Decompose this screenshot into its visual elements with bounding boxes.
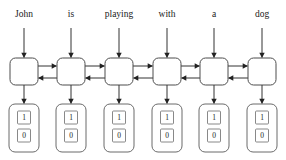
output-digit-value-2-2: 0 bbox=[69, 131, 73, 140]
output-digit-value-6-1: 1 bbox=[260, 113, 264, 122]
output-arrows-group bbox=[24, 85, 262, 104]
input-word-label-2: is bbox=[68, 9, 75, 19]
input-word-labels: Johnisplayingwithadog bbox=[15, 9, 269, 19]
output-boxes-group: 101010101010 bbox=[9, 104, 277, 152]
rnn-cell-3 bbox=[105, 58, 133, 85]
output-digit-value-3-1: 1 bbox=[117, 113, 121, 122]
rnn-cells-group bbox=[10, 58, 276, 85]
output-digit-value-1-2: 0 bbox=[22, 131, 26, 140]
input-arrows-group bbox=[24, 28, 262, 58]
rnn-cell-2 bbox=[57, 58, 85, 85]
input-word-label-6: dog bbox=[255, 9, 270, 19]
input-word-label-3: playing bbox=[105, 9, 134, 19]
diagram-canvas: Johnisplayingwithadog 101010101010 bbox=[0, 0, 286, 160]
output-digit-value-4-1: 1 bbox=[165, 113, 169, 122]
rnn-cell-6 bbox=[248, 58, 276, 85]
output-digit-value-2-1: 1 bbox=[69, 113, 73, 122]
output-digit-value-1-1: 1 bbox=[22, 113, 26, 122]
output-digit-value-4-2: 0 bbox=[165, 131, 169, 140]
output-digit-value-5-1: 1 bbox=[212, 113, 216, 122]
output-digit-value-6-2: 0 bbox=[260, 131, 264, 140]
rnn-cell-4 bbox=[153, 58, 181, 85]
input-word-label-5: a bbox=[212, 9, 217, 19]
rnn-cell-5 bbox=[200, 58, 228, 85]
bidirectional-rnn-diagram: Johnisplayingwithadog 101010101010 bbox=[0, 0, 286, 160]
input-word-label-4: with bbox=[159, 9, 176, 19]
output-digit-value-5-2: 0 bbox=[212, 131, 216, 140]
input-word-label-1: John bbox=[15, 9, 33, 19]
rnn-cell-1 bbox=[10, 58, 38, 85]
output-digit-value-3-2: 0 bbox=[117, 131, 121, 140]
